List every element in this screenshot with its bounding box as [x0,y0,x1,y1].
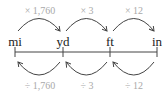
label-divide-3: ÷ 3 [81,81,94,91]
arrow-divide-in-ft [113,62,154,75]
arrow-multiply-yd-ft [66,19,107,32]
arrow-multiply-ft-in [113,19,154,32]
unit-ft: ft [106,35,114,48]
arrow-divide-ft-yd [66,62,107,75]
arrow-multiply-mi-yd [18,19,60,32]
label-multiply-3: × 3 [80,6,93,16]
unit-in: in [152,35,162,48]
unit-mi: mi [8,35,22,48]
label-multiply-12: × 12 [125,6,143,16]
label-divide-12: ÷ 12 [125,81,143,91]
arrow-divide-yd-mi [18,62,60,75]
label-divide-1760: ÷ 1,760 [25,81,56,91]
unit-yd: yd [57,35,70,48]
label-multiply-1760: × 1,760 [25,6,56,16]
